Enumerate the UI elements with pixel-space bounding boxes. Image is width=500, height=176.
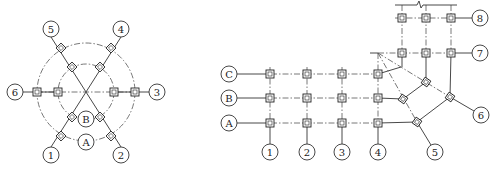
svg-text:3: 3 xyxy=(339,147,345,158)
svg-text:A: A xyxy=(224,118,233,129)
col-bubble-4: 4 xyxy=(370,144,386,160)
radial-bubble-6: 6 xyxy=(473,107,489,123)
axis-grid-diagrams: 5 4 6 3 1 2 B A xyxy=(0,0,500,176)
row-bubble-7: 7 xyxy=(472,45,488,61)
axis-bubble-2: 2 xyxy=(113,147,129,163)
svg-text:1: 1 xyxy=(48,150,54,161)
svg-text:2: 2 xyxy=(118,150,124,161)
svg-text:1: 1 xyxy=(267,147,273,158)
upper-col-c-ext xyxy=(450,53,451,97)
row-bubble-a: A xyxy=(221,115,237,131)
orthogonal-radial-grid-figure: C B A 1 2 3 4 5 6 7 8 xyxy=(221,1,489,160)
ring-bubble-a: A xyxy=(78,134,94,150)
svg-text:8: 8 xyxy=(477,13,483,24)
axis-bubble-1: 1 xyxy=(43,147,59,163)
col-bubble-1: 1 xyxy=(262,144,278,160)
row-bubble-c: C xyxy=(221,66,237,82)
svg-text:5: 5 xyxy=(432,147,438,158)
axis-bubble-3: 3 xyxy=(149,84,165,100)
ring-bubble-b: B xyxy=(78,111,94,127)
axis-bubble-4: 4 xyxy=(113,21,129,37)
svg-text:4: 4 xyxy=(375,147,381,158)
radial-bubble-5: 5 xyxy=(427,144,443,160)
svg-text:6: 6 xyxy=(478,110,484,121)
row-bubble-b: B xyxy=(221,90,237,106)
svg-text:6: 6 xyxy=(12,87,18,98)
axis-bubble-6: 6 xyxy=(7,84,23,100)
axis-bubble-5: 5 xyxy=(43,21,59,37)
row-bubble-8: 8 xyxy=(472,10,488,26)
radial-axis-6-stub xyxy=(450,97,474,111)
svg-text:B: B xyxy=(225,93,232,104)
svg-text:3: 3 xyxy=(154,87,160,98)
col-bubble-3: 3 xyxy=(334,144,350,160)
link-a xyxy=(417,97,450,122)
svg-text:5: 5 xyxy=(48,24,54,35)
svg-text:4: 4 xyxy=(118,24,124,35)
link-b xyxy=(403,82,426,99)
row-a-ext xyxy=(378,122,417,123)
svg-text:C: C xyxy=(225,69,233,80)
svg-text:7: 7 xyxy=(477,48,483,59)
column-markers-right xyxy=(266,14,455,127)
col-bubble-2: 2 xyxy=(299,144,315,160)
radial-grid-figure: 5 4 6 3 1 2 B A xyxy=(7,21,165,163)
radial-axis-5 xyxy=(378,53,417,122)
svg-text:A: A xyxy=(81,137,90,148)
svg-text:2: 2 xyxy=(304,147,310,158)
svg-text:B: B xyxy=(82,114,89,125)
